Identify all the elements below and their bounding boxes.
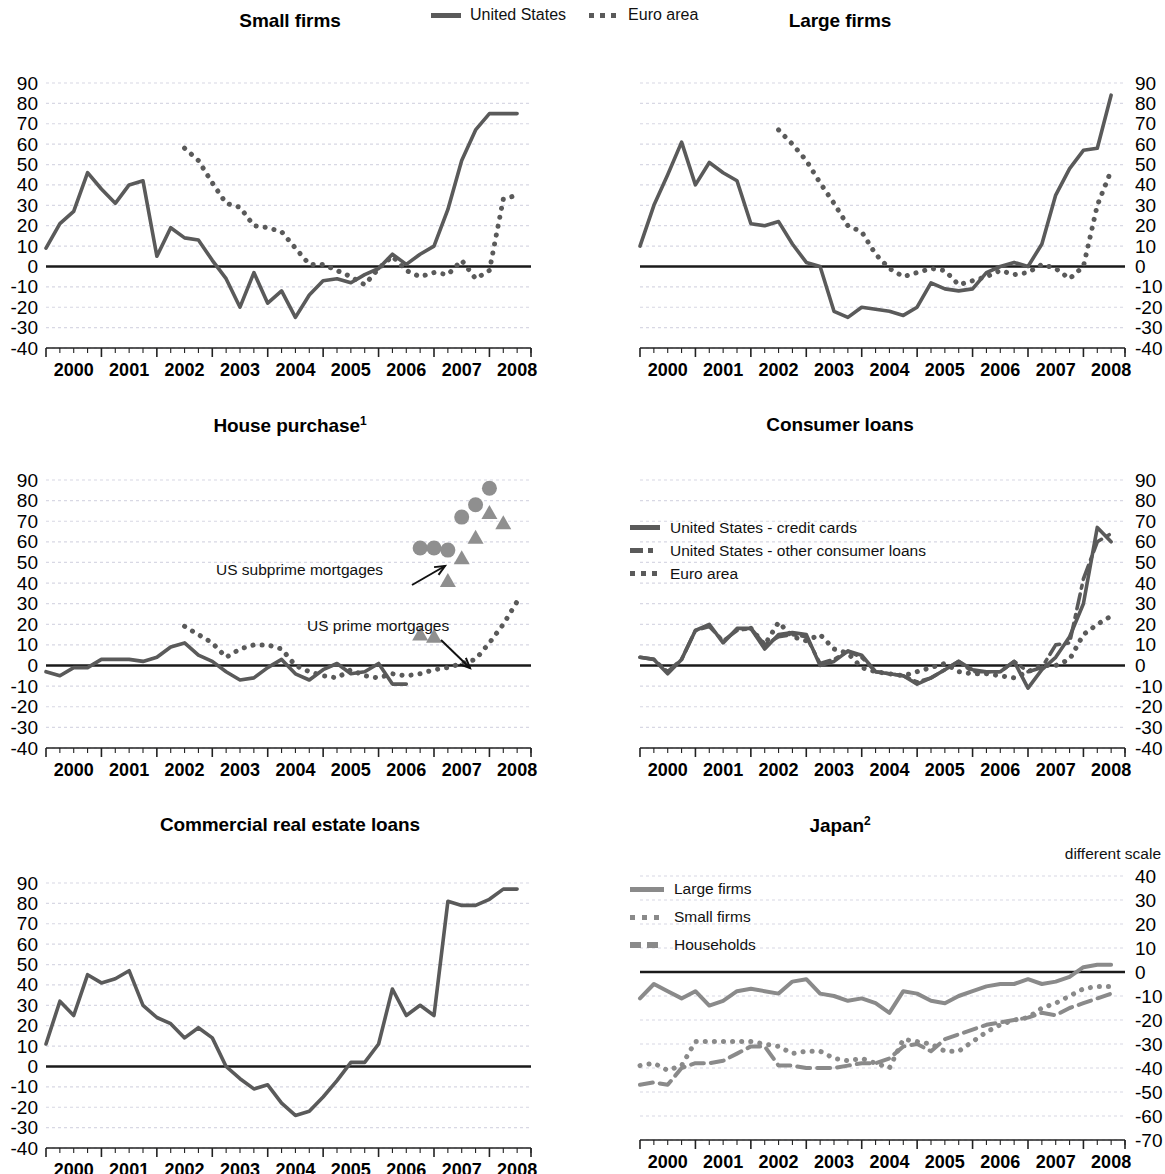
x-axis-tick-label: 2002 — [759, 760, 799, 780]
different-scale-note: different scale — [1065, 845, 1161, 863]
y-axis-tick-label: 10 — [17, 634, 38, 655]
x-axis-tick-label: 2006 — [386, 760, 426, 780]
legend-label: United States - other consumer loans — [670, 542, 926, 560]
y-axis-tick-label: -20 — [1135, 696, 1162, 717]
y-axis-tick-label: 50 — [17, 954, 38, 975]
y-axis-tick-label: 80 — [1135, 93, 1156, 114]
y-axis-tick-label: 10 — [1135, 634, 1156, 655]
x-axis-tick-label: 2000 — [54, 1160, 94, 1174]
legend-row-euro-area: Euro area — [630, 562, 926, 585]
x-axis-tick-label: 2008 — [1091, 1152, 1131, 1172]
x-axis-tick-label: 2006 — [386, 360, 426, 380]
y-axis-tick-label: 50 — [17, 552, 38, 573]
y-axis-tick-label: 70 — [1135, 113, 1156, 134]
chart-commercial-real-estate-loans: 9080706050403020100-10-20-30-40200020012… — [0, 800, 580, 1174]
x-axis-tick-label: 2006 — [980, 360, 1020, 380]
y-axis-tick-label: -40 — [1135, 738, 1162, 759]
data-marker-triangle — [481, 505, 497, 519]
legend-swatch-dashed — [630, 942, 664, 948]
y-axis-tick-label: -10 — [1135, 676, 1162, 697]
x-axis-tick-label: 2001 — [109, 1160, 149, 1174]
y-axis-tick-label: -50 — [1135, 1082, 1162, 1103]
legend-swatch-dash-dot — [630, 548, 660, 553]
y-axis-tick-label: -70 — [1135, 1130, 1162, 1151]
y-axis-tick-label: 80 — [1135, 490, 1156, 511]
y-axis-tick-label: -10 — [1135, 276, 1162, 297]
x-axis-tick-label: 2000 — [648, 760, 688, 780]
x-axis-tick-label: 2004 — [869, 760, 909, 780]
x-axis-tick-label: 2008 — [497, 1160, 537, 1174]
y-axis-tick-label: 40 — [1135, 174, 1156, 195]
y-axis-tick-label: 10 — [1135, 938, 1156, 959]
x-axis-tick-label: 2005 — [331, 760, 371, 780]
y-axis-tick-label: 90 — [17, 73, 38, 94]
x-axis-tick-label: 2002 — [759, 360, 799, 380]
x-axis-tick-label: 2003 — [814, 360, 854, 380]
y-axis-tick-label: -20 — [11, 696, 38, 717]
data-series-line — [46, 643, 406, 684]
chart-plot-area: 9080706050403020100-10-20-30-40200020012… — [640, 73, 1162, 381]
chart-house-purchase: 9080706050403020100-10-20-30-40200020012… — [0, 400, 580, 790]
chart-plot-area: 9080706050403020100-10-20-30-40200020012… — [11, 73, 538, 381]
x-axis-tick-label: 2001 — [703, 360, 743, 380]
chart-consumer-loans: 9080706050403020100-10-20-30-40200020012… — [585, 400, 1165, 790]
y-axis-tick-label: 30 — [17, 195, 38, 216]
x-axis-tick-label: 2005 — [331, 1160, 371, 1174]
panel-title-commercial-real-estate-loans: Commercial real estate loans — [0, 814, 580, 836]
y-axis-tick-label: 90 — [17, 873, 38, 894]
y-axis-tick-label: 20 — [17, 1015, 38, 1036]
y-axis-tick-label: 0 — [1135, 256, 1146, 277]
y-axis-tick-label: 90 — [17, 470, 38, 491]
y-axis-tick-label: 30 — [1135, 593, 1156, 614]
data-series-line — [751, 616, 1111, 678]
y-axis-tick-label: 80 — [17, 893, 38, 914]
y-axis-tick-label: 40 — [1135, 866, 1156, 887]
x-axis-tick-label: 2002 — [759, 1152, 799, 1172]
panel-title-house-purchase: House purchase1 — [0, 414, 580, 437]
y-axis-tick-label: 50 — [1135, 154, 1156, 175]
panel-consumer-loans: Consumer loans 9080706050403020100-10-20… — [585, 400, 1165, 790]
y-axis-tick-label: -30 — [11, 717, 38, 738]
legend-swatch-dotted — [630, 915, 664, 920]
x-axis-tick-label: 2007 — [442, 760, 482, 780]
x-axis-tick-label: 2003 — [814, 760, 854, 780]
y-axis-tick-label: -10 — [11, 676, 38, 697]
x-axis-tick-label: 2006 — [980, 760, 1020, 780]
y-axis-tick-label: 90 — [1135, 73, 1156, 94]
y-axis-tick-label: 50 — [1135, 552, 1156, 573]
panel-title-text: Large firms — [789, 10, 891, 31]
y-axis-tick-label: -10 — [11, 276, 38, 297]
data-marker-triangle — [454, 550, 470, 564]
y-axis-tick-label: 20 — [1135, 215, 1156, 236]
legend-label: Households — [674, 936, 756, 954]
x-axis-tick-label: 2007 — [442, 360, 482, 380]
data-marker-circle — [440, 543, 455, 558]
x-axis-tick-label: 2004 — [275, 760, 315, 780]
y-axis-tick-label: -20 — [1135, 297, 1162, 318]
x-axis-tick-label: 2000 — [648, 1152, 688, 1172]
x-axis-tick-label: 2002 — [165, 760, 205, 780]
panel-title-text: Commercial real estate loans — [160, 814, 420, 835]
y-axis-tick-label: -40 — [1135, 338, 1162, 359]
x-axis-tick-label: 2005 — [925, 360, 965, 380]
y-axis-tick-label: -20 — [11, 297, 38, 318]
y-axis-tick-label: -40 — [11, 338, 38, 359]
y-axis-tick-label: -30 — [11, 317, 38, 338]
legend-row-united-states-credit-cards: United States - credit cards — [630, 516, 926, 539]
y-axis-tick-label: 90 — [1135, 470, 1156, 491]
panel-small-firms: Small firms 9080706050403020100-10-20-30… — [0, 0, 580, 390]
panel-title-text: Small firms — [239, 10, 340, 31]
legend-swatch-solid — [630, 887, 664, 892]
y-axis-tick-label: 70 — [17, 113, 38, 134]
x-axis-tick-label: 2008 — [1091, 760, 1131, 780]
chart-plot-area: 9080706050403020100-10-20-30-40200020012… — [11, 873, 538, 1174]
x-axis-tick-label: 2001 — [109, 760, 149, 780]
legend-consumer-loans: United States - credit cards United Stat… — [630, 516, 926, 585]
y-axis-tick-label: -30 — [1135, 717, 1162, 738]
y-axis-tick-label: 10 — [1135, 236, 1156, 257]
panel-title-footnote-marker: 1 — [360, 414, 367, 428]
y-axis-tick-label: -30 — [1135, 317, 1162, 338]
y-axis-tick-label: 60 — [1135, 531, 1156, 552]
panel-title-text: Consumer loans — [766, 414, 913, 435]
y-axis-tick-label: 10 — [17, 1036, 38, 1057]
